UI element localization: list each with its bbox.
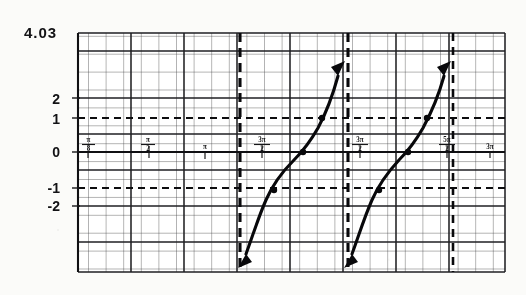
x-tick-label-0: π 8 xyxy=(82,136,95,153)
marked-point xyxy=(271,187,277,193)
marked-point xyxy=(405,149,411,155)
marked-point xyxy=(424,115,430,121)
y-tick-label-1: 1 xyxy=(26,111,60,127)
x-tick-label-5: 5π 2 xyxy=(439,136,455,153)
y-tick-label-2: 2 xyxy=(26,91,60,107)
x-tick-label-2: π xyxy=(199,138,211,151)
y-tick-label-0: 0 xyxy=(26,144,60,160)
x-tick-label-1: π 2 xyxy=(141,136,155,153)
marked-point xyxy=(319,115,325,121)
y-tick-label-minus-2: -2 xyxy=(26,198,60,214)
x-tick-label-4: 3π 2 xyxy=(352,136,368,153)
marked-point xyxy=(300,149,306,155)
figure-tangent-graph: 4.03 2 1 0 -1 -2 π 8 π 2 π 3π 2 3π 2 5π … xyxy=(0,0,526,295)
x-tick-label-6: 3π xyxy=(483,138,497,151)
y-tick-label-minus-1: -1 xyxy=(26,180,60,196)
marked-point xyxy=(376,187,382,193)
x-tick-label-3: 3π 2 xyxy=(254,136,270,153)
figure-number: 4.03 xyxy=(24,24,57,41)
